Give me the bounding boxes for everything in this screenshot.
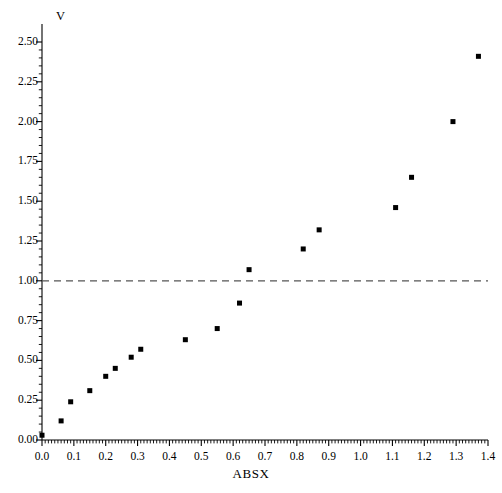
- data-point: [129, 355, 134, 360]
- data-point: [68, 399, 73, 404]
- data-point: [215, 326, 220, 331]
- y-tick-label: 0.00: [0, 433, 38, 445]
- data-point: [247, 267, 252, 272]
- data-points-group: [40, 54, 481, 438]
- x-tick-label: 1.4: [468, 450, 502, 462]
- y-tick-label: 1.25: [0, 234, 38, 246]
- plot-area: [0, 0, 502, 493]
- y-tick-label: 2.25: [0, 75, 38, 87]
- data-point: [476, 54, 481, 59]
- y-tick-label: 2.50: [0, 35, 38, 47]
- data-point: [450, 119, 455, 124]
- data-point: [138, 347, 143, 352]
- x-axis-title: ABSX: [0, 466, 502, 482]
- data-point: [87, 388, 92, 393]
- data-point: [59, 418, 64, 423]
- axes-group: [36, 24, 488, 446]
- data-point: [409, 175, 414, 180]
- scatter-chart: V ABSX 0.000.250.500.751.001.251.501.752…: [0, 0, 502, 493]
- data-point: [237, 301, 242, 306]
- y-tick-label: 2.00: [0, 115, 38, 127]
- y-tick-label: 0.75: [0, 314, 38, 326]
- data-point: [103, 374, 108, 379]
- data-point: [183, 337, 188, 342]
- data-point: [393, 205, 398, 210]
- data-point: [317, 227, 322, 232]
- data-point: [301, 246, 306, 251]
- y-tick-label: 1.00: [0, 274, 38, 286]
- y-axis-title: V: [56, 9, 65, 24]
- data-point: [40, 433, 45, 438]
- y-tick-label: 0.50: [0, 353, 38, 365]
- y-tick-label: 1.50: [0, 194, 38, 206]
- y-tick-label: 1.75: [0, 154, 38, 166]
- data-point: [113, 366, 118, 371]
- y-tick-label: 0.25: [0, 393, 38, 405]
